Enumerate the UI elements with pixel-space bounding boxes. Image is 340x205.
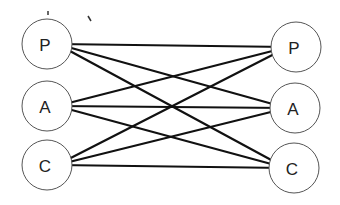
node-label: C — [39, 157, 51, 176]
node-label: A — [39, 98, 51, 117]
left-node-c: C — [22, 140, 72, 190]
node-label: A — [287, 100, 299, 119]
edge-l-a-to-r-p — [57, 47, 288, 106]
node-label: P — [39, 36, 50, 55]
right-node-a: A — [270, 83, 320, 133]
left-node-p: P — [22, 19, 72, 69]
right-node-c: C — [269, 143, 319, 193]
edges-group — [57, 44, 288, 168]
edge-l-c-to-r-a — [57, 108, 287, 165]
edge-l-c-to-r-c — [57, 165, 286, 168]
stray-mark — [88, 16, 91, 21]
right-node-p: P — [271, 22, 321, 72]
node-label: P — [288, 39, 299, 58]
bipartite-diagram: P A C P A C — [0, 0, 340, 205]
left-node-a: A — [22, 81, 72, 131]
edge-l-p-to-r-p — [57, 44, 288, 47]
node-label: C — [286, 160, 298, 179]
